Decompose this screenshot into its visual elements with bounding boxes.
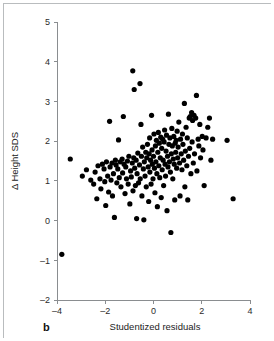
data-point [162, 127, 167, 132]
y-tick-label: –2 [40, 295, 50, 305]
data-point [127, 201, 132, 206]
y-tick-label: 2 [45, 136, 50, 146]
data-point [196, 143, 201, 148]
data-point [125, 158, 130, 163]
data-point-group [59, 68, 235, 257]
data-point [176, 119, 181, 124]
data-point [207, 116, 212, 121]
data-point [59, 252, 64, 257]
y-axis-title: Δ Height SDS [9, 132, 20, 190]
data-point [94, 196, 99, 201]
data-point [149, 113, 154, 118]
data-point [144, 184, 149, 189]
data-point [110, 193, 115, 198]
data-point [150, 176, 155, 181]
data-point [121, 114, 126, 119]
data-point [182, 101, 187, 106]
data-point [182, 184, 187, 189]
y-axis-ticks: –2–1012345 [40, 17, 57, 305]
data-point [172, 197, 177, 202]
data-point [132, 166, 137, 171]
data-point [185, 135, 190, 140]
data-point [134, 171, 139, 176]
data-point [145, 142, 150, 147]
data-point [147, 135, 152, 140]
data-point [160, 167, 165, 172]
x-tick-label: 2 [199, 306, 204, 316]
data-point [162, 139, 167, 144]
data-point [191, 160, 196, 165]
data-point [156, 163, 161, 168]
data-point [193, 116, 198, 121]
scatter-plot: –2–1012345 –4–2024 Δ Height SDS Studenti… [0, 0, 274, 341]
x-tick-label: 0 [151, 306, 156, 316]
data-point [107, 119, 112, 124]
data-point [113, 158, 118, 163]
data-point [101, 166, 106, 171]
data-point [175, 129, 180, 134]
y-tick-label: 3 [45, 97, 50, 107]
data-point [91, 181, 96, 186]
data-point [103, 203, 108, 208]
data-point [180, 142, 185, 147]
data-point [169, 126, 174, 131]
data-point [156, 130, 161, 135]
data-point [111, 171, 116, 176]
data-point [129, 174, 134, 179]
data-point [159, 195, 164, 200]
data-point [185, 197, 190, 202]
data-point [176, 145, 181, 150]
data-point [132, 87, 137, 92]
panel-label: b [43, 321, 50, 333]
data-point [194, 168, 199, 173]
data-point [164, 208, 169, 213]
data-point [149, 147, 154, 152]
data-point [80, 173, 85, 178]
data-point [115, 166, 120, 171]
data-point [183, 125, 188, 130]
y-tick-label: 4 [45, 57, 50, 67]
data-point [98, 186, 103, 191]
x-axis-title: Studentized residuals [110, 321, 201, 332]
data-point [231, 196, 236, 201]
data-point [155, 150, 160, 155]
data-point [148, 181, 153, 186]
data-point [177, 193, 182, 198]
data-point [163, 173, 168, 178]
data-point [157, 175, 162, 180]
data-point [166, 112, 171, 117]
data-point [161, 183, 166, 188]
data-point [68, 156, 73, 161]
scatter-plot-canvas: –2–1012345 –4–2024 Δ Height SDS Studenti… [0, 0, 274, 341]
data-point [106, 189, 111, 194]
data-point [178, 137, 183, 142]
data-point [205, 125, 210, 130]
y-tick-label: 5 [45, 17, 50, 27]
data-point [114, 180, 119, 185]
data-point [126, 154, 131, 159]
data-point [159, 146, 164, 151]
data-point [165, 164, 170, 169]
data-point [105, 173, 110, 178]
data-point [163, 148, 168, 153]
data-point [124, 176, 129, 181]
data-point [170, 176, 175, 181]
data-point [104, 159, 109, 164]
data-point [203, 135, 208, 140]
data-point [198, 155, 203, 160]
data-point [140, 145, 145, 150]
x-axis-ticks: –4–2024 [52, 300, 253, 316]
data-point [151, 154, 156, 159]
data-point [224, 138, 229, 143]
data-point [97, 176, 102, 181]
data-point [84, 167, 89, 172]
data-point [192, 151, 197, 156]
data-point [108, 177, 113, 182]
data-point [120, 170, 125, 175]
data-point [137, 162, 142, 167]
data-point [138, 176, 143, 181]
data-point [190, 139, 195, 144]
data-point [187, 146, 192, 151]
x-tick-label: –2 [100, 306, 110, 316]
data-point [137, 81, 142, 86]
